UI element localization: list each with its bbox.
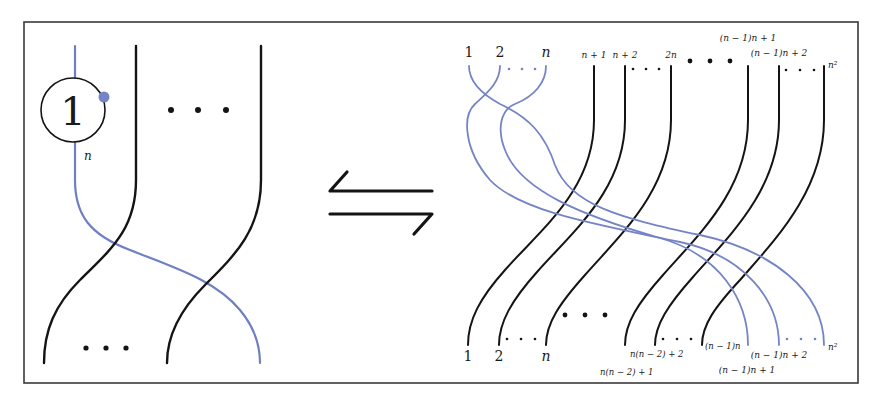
- right-bottom-ellipsis-1: [506, 338, 537, 341]
- right-braid: 1 2 n n + 1 n + 2 2n (n − 1)n + 1 (n − 1…: [464, 33, 838, 377]
- right-top-ellipsis-1: [632, 68, 661, 71]
- right-bottom-ellipsis-blue: [786, 338, 817, 341]
- braid-diagram: 1 n 1 2: [0, 0, 882, 406]
- left-top-ellipsis: [168, 107, 229, 113]
- top-label-1: 1: [465, 44, 474, 60]
- top-label-n-1-n-plus-1: (n − 1)n + 1: [720, 33, 777, 43]
- bottom-label-n-n-2-plus-2: n(n − 2) + 2: [630, 349, 683, 359]
- left-black-strand-2: [167, 46, 261, 363]
- bottom-label-n-n-2-plus-1: n(n − 2) + 1: [600, 367, 653, 377]
- bottom-label-n-1-n: (n − 1)n: [705, 341, 741, 351]
- coupon-marker-dot: [99, 92, 110, 103]
- bottom-label-2: 2: [495, 348, 504, 364]
- bottom-label-n: n: [541, 348, 550, 364]
- figure-frame: [24, 22, 858, 383]
- left-strand-label-n: n: [84, 149, 92, 163]
- left-bottom-ellipsis: [83, 345, 128, 350]
- equivalence-arrow-icon: [330, 172, 432, 234]
- right-black-strand-2n: [546, 66, 671, 345]
- top-label-n-1-n-plus-2: (n − 1)n + 2: [751, 48, 808, 58]
- left-braid: 1 n: [41, 46, 261, 363]
- top-label-n-squared: n²: [828, 60, 838, 70]
- top-label-n: n: [541, 44, 550, 60]
- left-blue-strand: [75, 142, 260, 363]
- right-bottom-ellipsis-big: [563, 313, 608, 318]
- bottom-label-n-1-n-plus-2: (n − 1)n + 2: [751, 350, 808, 360]
- right-bottom-ellipsis-2: [662, 338, 693, 341]
- bottom-label-n-squared: n²: [828, 342, 838, 352]
- top-label-n-plus-1: n + 1: [582, 50, 607, 60]
- coupon-label: 1: [60, 88, 85, 134]
- bottom-label-n-1-n-plus-1: (n − 1)n + 1: [719, 365, 776, 375]
- top-label-2: 2: [496, 44, 505, 60]
- right-blue-strand-1: [469, 66, 824, 345]
- right-top-ellipsis-blue: [508, 68, 537, 71]
- right-black-strand-n1n2: [655, 66, 779, 345]
- bottom-label-1: 1: [464, 348, 473, 364]
- top-label-2n: 2n: [664, 50, 677, 60]
- top-label-n-plus-2: n + 2: [613, 50, 638, 60]
- right-top-ellipsis-big: [688, 59, 733, 64]
- right-top-ellipsis-2: [785, 69, 816, 72]
